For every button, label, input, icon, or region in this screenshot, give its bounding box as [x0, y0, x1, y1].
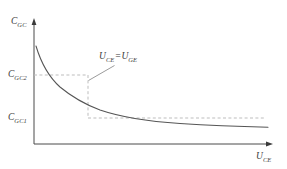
y-axis	[32, 18, 37, 144]
y-axis-arrowhead-icon	[32, 18, 37, 25]
plot-canvas	[0, 0, 287, 169]
y-tick-label-cgc2-subscript: GC2	[14, 74, 27, 81]
annotation-left-main: U	[99, 51, 106, 61]
y-tick-label-cgc2: CGC2	[8, 70, 27, 81]
guide-lines	[34, 75, 265, 118]
x-axis	[34, 142, 273, 147]
operating-point-annotation: UCE=UGE	[99, 52, 137, 63]
x-axis-arrowhead-icon	[266, 142, 273, 147]
x-axis-label-subscript: CE	[263, 156, 272, 163]
y-axis-label-subscript: GC	[17, 21, 26, 28]
y-axis-label: CGC	[11, 17, 27, 28]
y-tick-label-cgc1-subscript: GC1	[14, 117, 27, 124]
capacitance-vs-voltage-figure: CGC UCE CGC2 CGC1 UCE=UGE	[0, 0, 287, 169]
x-axis-label: UCE	[256, 152, 271, 163]
x-axis-label-main: U	[256, 151, 263, 161]
annotation-leader-line	[89, 66, 115, 81]
capacitance-curve	[36, 46, 268, 127]
annotation-right-subscript: GE	[128, 56, 137, 63]
y-tick-label-cgc1: CGC1	[8, 113, 27, 124]
